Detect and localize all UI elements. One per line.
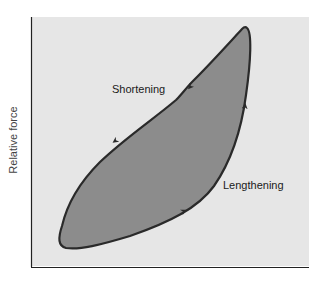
y-axis-label: Relative force xyxy=(7,106,19,173)
shortening-label: Shortening xyxy=(112,83,165,95)
lengthening-label: Lengthening xyxy=(223,179,284,191)
hysteresis-diagram xyxy=(0,0,322,284)
